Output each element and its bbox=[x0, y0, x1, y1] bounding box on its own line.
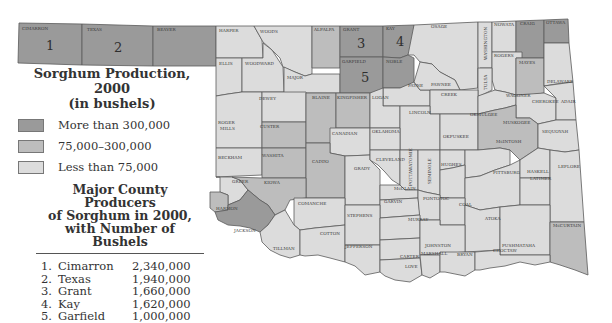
rank-label-garfield: 5 bbox=[361, 70, 369, 85]
producer-row: 1. Cimarron 2,340,000 bbox=[36, 260, 204, 273]
producer-county: Garfield bbox=[58, 310, 132, 323]
label-noble: NOBLE bbox=[386, 59, 403, 64]
legend-label-mid: 75,000–300,000 bbox=[58, 139, 152, 153]
rank-label-texas: 2 bbox=[114, 40, 122, 55]
label-ellis: ELLIS bbox=[219, 61, 233, 66]
label-leflore: LEFLORE bbox=[558, 164, 580, 169]
producers-list: 1. Cimarron 2,340,000 2. Texas 1,940,000… bbox=[36, 260, 204, 323]
label-cimarron: CIMARRON bbox=[22, 26, 49, 31]
label-love: LOVE bbox=[405, 264, 418, 269]
producers-title-line3: with Number of Bushels bbox=[36, 222, 204, 248]
label-beaver: BEAVER bbox=[157, 27, 177, 32]
county-atoka bbox=[465, 205, 500, 252]
label-atoka: ATOKA bbox=[484, 216, 501, 221]
label-osage: OSAGE bbox=[431, 24, 447, 29]
label-alfalfa: ALFALFA bbox=[313, 27, 335, 32]
label-grady: GRADY bbox=[354, 166, 370, 171]
label-mcintosh: McINTOSH bbox=[496, 139, 522, 144]
legend-item-low: Less than 75,000 bbox=[14, 160, 210, 174]
county-love bbox=[380, 258, 422, 282]
label-washington: WASHINGTON bbox=[483, 27, 488, 60]
county-latimer bbox=[520, 178, 550, 205]
label-caddo: CADDO bbox=[312, 159, 329, 164]
county-beckham bbox=[216, 148, 262, 177]
label-harmon: HARMON bbox=[216, 206, 238, 211]
label-adair: ADAIR bbox=[560, 99, 576, 104]
legend-label-low: Less than 75,000 bbox=[58, 160, 158, 174]
label-kingfisher: KINGFISHER bbox=[337, 95, 368, 100]
label-hughes: HUGHES bbox=[441, 162, 462, 167]
producer-bushels: 2,340,000 bbox=[132, 260, 202, 273]
county-hughes bbox=[440, 165, 465, 198]
label-grant: GRANT bbox=[343, 27, 360, 32]
label-pushmataha: PUSHMATAHA bbox=[502, 243, 536, 248]
producer-row: 5. Garfield 1,000,000 bbox=[36, 310, 204, 323]
label-muskogee: MUSKOGEE bbox=[503, 120, 530, 125]
legend-title: Sorghum Production, 2000 (in bushels) bbox=[14, 66, 210, 111]
label-ottawa: OTTAWA bbox=[546, 20, 566, 25]
label-johnston: JOHNSTON bbox=[424, 243, 451, 248]
label-harper: HARPER bbox=[219, 28, 239, 33]
label-tulsa: TULSA bbox=[483, 74, 488, 90]
producer-bushels: 1,000,000 bbox=[132, 310, 202, 323]
county-sequoyah bbox=[538, 120, 579, 152]
label-lincoln: LINCOLN bbox=[409, 110, 431, 115]
label-okmulgee: OKMULGEE bbox=[470, 112, 497, 117]
label-cotton: COTTON bbox=[320, 231, 340, 236]
label-pontotoc: PONTOTOC bbox=[423, 196, 449, 201]
legend-title-line2: (in bushels) bbox=[14, 96, 210, 111]
legend-swatch-high bbox=[18, 119, 44, 132]
county-pontotoc bbox=[418, 190, 440, 220]
label-mcclain: McCLAIN bbox=[394, 186, 416, 191]
label-mayes: MAYES bbox=[519, 60, 535, 65]
label-garvin: GARVIN bbox=[384, 199, 403, 204]
producer-rank: 5. bbox=[36, 310, 52, 323]
label-cherokee: CHEROKEE bbox=[532, 99, 559, 104]
producer-bushels: 1,660,000 bbox=[132, 285, 202, 298]
label-woods: WOODS bbox=[260, 29, 278, 34]
label-payne: PAYNE bbox=[408, 83, 423, 88]
label-stephens: STEPHENS bbox=[347, 213, 373, 218]
county-leflore bbox=[550, 150, 584, 222]
legend-swatch-mid bbox=[18, 140, 44, 153]
label-tillman: TILLMAN bbox=[273, 246, 295, 251]
label-carter: CARTER bbox=[400, 254, 420, 259]
label-dewey: DEWEY bbox=[259, 96, 276, 101]
label-pittsburg: PITTSBURG bbox=[493, 170, 521, 175]
label-coal: COAL bbox=[459, 202, 472, 207]
label-greer: GREER bbox=[232, 179, 249, 184]
rank-label-kay: 4 bbox=[396, 34, 404, 49]
county-alfalfa bbox=[312, 26, 340, 68]
label-choctaw: CHOCTAW bbox=[493, 248, 518, 253]
label-mills: MILLS bbox=[220, 126, 235, 131]
producer-rank: 3. bbox=[36, 285, 52, 298]
label-cleveland: CLEVELAND bbox=[376, 157, 405, 162]
label-pottawatomie: POTTAWATOMIE bbox=[408, 148, 413, 186]
legend-title-line1: Sorghum Production, 2000 bbox=[14, 66, 210, 96]
label-haskell: HASKELL bbox=[527, 169, 549, 174]
producers-title: Major County Producers of Sorghum in 200… bbox=[36, 183, 204, 254]
legend: Sorghum Production, 2000 (in bushels) Mo… bbox=[14, 66, 210, 174]
legend-item-high: More than 300,000 bbox=[14, 118, 210, 132]
producer-rank: 1. bbox=[36, 260, 52, 273]
label-logan: LOGAN bbox=[372, 95, 389, 100]
label-bryan: BRYAN bbox=[457, 252, 473, 257]
label-mccurtain: McCURTAIN bbox=[553, 223, 581, 228]
major-producers-table: Major County Producers of Sorghum in 200… bbox=[36, 183, 204, 323]
label-comanche: COMANCHE bbox=[298, 201, 326, 206]
legend-item-mid: 75,000–300,000 bbox=[14, 139, 210, 153]
legend-swatch-low bbox=[18, 161, 44, 174]
label-sequoyah: SEQUOYAH bbox=[542, 129, 568, 134]
label-creek: CREEK bbox=[441, 92, 458, 97]
label-kay: KAY bbox=[386, 26, 395, 31]
label-texas: TEXAS bbox=[87, 27, 102, 32]
county-johnston bbox=[420, 220, 465, 255]
label-delaware: DELAWARE bbox=[547, 79, 573, 84]
label-rogers: ROGERS bbox=[494, 53, 514, 58]
rank-label-cimarron: 1 bbox=[46, 38, 54, 53]
producer-county: Grant bbox=[58, 285, 132, 298]
label-garfield: GARFIELD bbox=[342, 59, 367, 64]
label-okfuskee: OKFUSKEE bbox=[443, 134, 469, 139]
county-beaver bbox=[153, 26, 216, 66]
label-jefferson: JEFFERSON bbox=[344, 244, 373, 249]
